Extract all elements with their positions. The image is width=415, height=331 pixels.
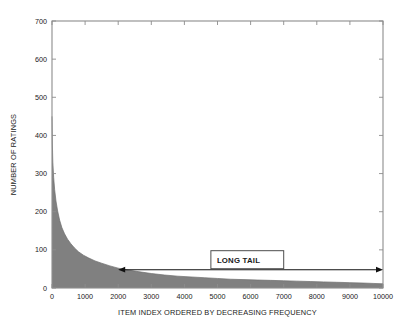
plot-area-background xyxy=(52,21,383,288)
x-tick-label: 9000 xyxy=(342,292,358,301)
x-tick-label: 8000 xyxy=(309,292,325,301)
x-tick-label: 2000 xyxy=(110,292,126,301)
x-tick-label: 5000 xyxy=(210,292,226,301)
x-tick-label: 0 xyxy=(50,292,54,301)
y-tick-label: 100 xyxy=(35,245,47,254)
y-axis-title: NUMBER OF RATINGS xyxy=(9,114,18,195)
x-axis-title: ITEM INDEX ORDERED BY DECREASING FREQUEN… xyxy=(118,308,317,317)
x-tick-label: 10000 xyxy=(373,292,393,301)
y-tick-label: 200 xyxy=(35,207,47,216)
x-tick-label: 4000 xyxy=(176,292,192,301)
x-tick-label: 1000 xyxy=(77,292,93,301)
y-tick-label: 600 xyxy=(35,55,47,64)
y-tick-label: 400 xyxy=(35,131,47,140)
y-tick-label: 500 xyxy=(35,93,47,102)
long-tail-label: LONG TAIL xyxy=(217,256,260,265)
chart-figure: 0100020003000400050006000700080009000100… xyxy=(0,0,415,331)
long-tail-area-chart: 0100020003000400050006000700080009000100… xyxy=(0,0,415,331)
x-tick-label: 7000 xyxy=(276,292,292,301)
x-tick-label: 3000 xyxy=(143,292,159,301)
y-tick-label: 700 xyxy=(35,17,47,26)
y-tick-label: 0 xyxy=(43,284,47,293)
y-tick-label: 300 xyxy=(35,169,47,178)
x-tick-label: 6000 xyxy=(243,292,259,301)
